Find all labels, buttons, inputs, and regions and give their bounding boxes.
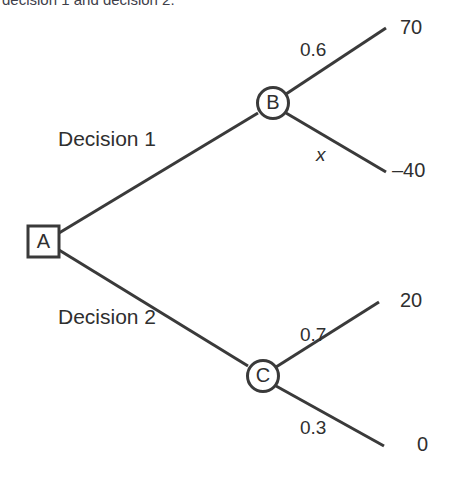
node-c-label: C bbox=[256, 364, 270, 386]
edge-b-down bbox=[286, 113, 386, 172]
edge-label-decision-1: Decision 1 bbox=[58, 128, 156, 149]
edge-b-up bbox=[286, 28, 386, 94]
tree-graphics: A B C bbox=[0, 0, 449, 479]
node-a: A bbox=[28, 226, 59, 257]
node-b-label: B bbox=[266, 91, 279, 113]
edge-c-up bbox=[276, 302, 379, 367]
edge-label-prob-b-down: x bbox=[316, 145, 326, 164]
node-a-label: A bbox=[37, 230, 51, 252]
node-b: B bbox=[258, 88, 289, 119]
payoff-c-up: 20 bbox=[400, 290, 422, 310]
payoff-c-down: 0 bbox=[417, 434, 428, 454]
edge-c-down bbox=[276, 386, 384, 446]
edge-label-prob-b-up: 0.6 bbox=[300, 40, 326, 59]
payoff-b-down: –40 bbox=[392, 160, 425, 180]
edge-label-decision-2: Decision 2 bbox=[58, 306, 156, 327]
node-c: C bbox=[248, 361, 279, 392]
edge-label-prob-c-up: 0.7 bbox=[300, 325, 326, 344]
payoff-b-up: 70 bbox=[400, 17, 422, 37]
decision-tree-figure: decision 1 and decision 2. A B C Decisio… bbox=[0, 0, 449, 479]
edge-label-prob-c-down: 0.3 bbox=[300, 418, 326, 437]
